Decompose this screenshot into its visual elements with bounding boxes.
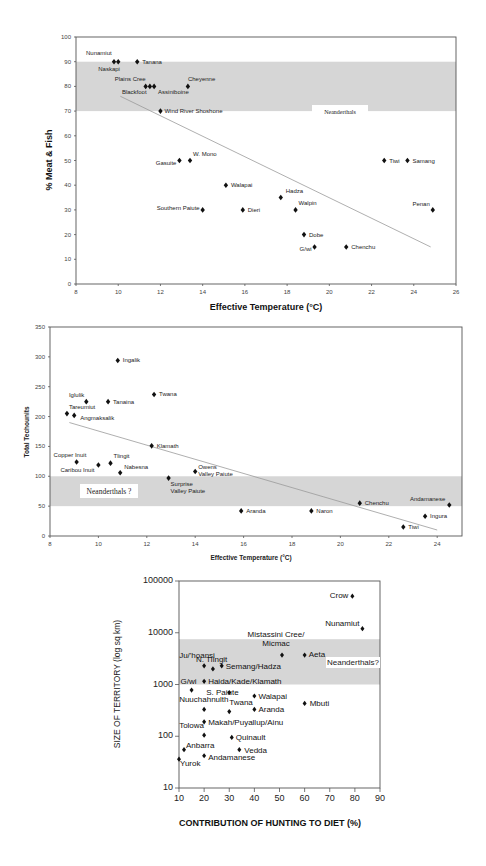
y-tick-label: 100 xyxy=(61,34,72,40)
diamond-marker-icon xyxy=(431,207,435,213)
data-point: Twana xyxy=(227,698,253,715)
data-point: Crow xyxy=(330,591,355,600)
band-label: Neanderthals ? xyxy=(87,487,132,496)
diamond-marker-icon xyxy=(190,687,194,692)
diamond-marker-icon xyxy=(401,524,405,530)
x-tick-label: 18 xyxy=(284,289,291,295)
data-point: Quinault xyxy=(230,733,267,742)
x-tick-label: 22 xyxy=(368,289,375,295)
diamond-marker-icon xyxy=(116,358,120,364)
point-label: Haida/Kade/Klamath xyxy=(208,677,281,686)
data-point: Hadza xyxy=(279,188,304,201)
point-label: Andamanese xyxy=(208,753,256,762)
x-tick-label: 20 xyxy=(337,541,344,547)
neanderthal-range-band xyxy=(76,62,456,111)
x-tick-label: 18 xyxy=(289,541,296,547)
x-tick-label: 22 xyxy=(385,541,392,547)
point-label: Southern Paiute xyxy=(157,205,201,211)
y-tick-label: 10 xyxy=(64,256,71,262)
x-tick-label: 50 xyxy=(274,793,284,803)
y-tick-label: 40 xyxy=(64,182,71,188)
y-tick-label: 350 xyxy=(35,324,46,330)
point-label: Nunamiut xyxy=(86,50,112,56)
x-tick-label: 24 xyxy=(410,289,417,295)
diamond-marker-icon xyxy=(279,195,283,201)
y-axis-title: Total Techounits xyxy=(23,406,30,457)
diamond-marker-icon xyxy=(149,443,153,449)
data-point: Chenchu xyxy=(344,244,375,250)
diamond-marker-icon xyxy=(152,392,156,398)
y-tick-label: 250 xyxy=(35,384,46,390)
y-tick-label: 1000 xyxy=(153,679,173,689)
y-tick-label: 0 xyxy=(68,281,72,287)
point-label: Ingura xyxy=(430,513,448,519)
data-point: Ingalik xyxy=(116,357,142,363)
x-tick-label: 14 xyxy=(199,289,206,295)
x-tick-label: 20 xyxy=(326,289,333,295)
point-label: Tiwi xyxy=(389,158,399,164)
point-label: Valley Paiute xyxy=(198,471,233,477)
point-label: Makah/Puyallup/Ainu xyxy=(208,718,283,727)
diamond-marker-icon xyxy=(118,470,122,476)
x-tick-label: 12 xyxy=(157,289,164,295)
point-label: Mistassini Cree/ xyxy=(248,630,306,639)
data-point: Tanaina xyxy=(106,399,135,405)
data-point: Penan xyxy=(412,201,435,213)
point-label: Naskapi xyxy=(98,66,120,72)
point-label: Nuuchahnulth xyxy=(179,695,228,704)
data-point: Tiwi xyxy=(382,158,400,164)
point-label: Walapai xyxy=(258,692,287,701)
point-label: Tlingit xyxy=(114,453,130,459)
data-point: Iglulik xyxy=(69,392,89,405)
x-tick-label: 14 xyxy=(192,541,199,547)
chart-techounits-vs-temperature: Neanderthals ?81012141618202224050100150… xyxy=(23,324,462,562)
x-axis-title: Effective Temperature (°C) xyxy=(210,302,322,312)
point-label: Tanana xyxy=(142,59,162,65)
diamond-marker-icon xyxy=(382,158,386,164)
point-label: Nunamiut xyxy=(325,619,360,628)
diamond-marker-icon xyxy=(241,207,245,213)
diamond-marker-icon xyxy=(72,413,76,419)
point-label: Assiniboine xyxy=(158,89,189,95)
data-point: Angmaksalik xyxy=(72,413,115,422)
y-tick-label: 100 xyxy=(158,730,173,740)
diamond-marker-icon xyxy=(96,462,100,468)
point-label: G/wi xyxy=(300,246,312,252)
point-label: Aranda xyxy=(246,508,266,514)
point-label: Crow xyxy=(330,591,349,600)
point-label: Tareumiut xyxy=(69,404,96,410)
point-label: G/wi xyxy=(181,677,197,686)
point-label: Tiwi xyxy=(408,524,418,530)
data-point: Haida/Kade/Klamath xyxy=(202,677,281,686)
y-tick-label: 80 xyxy=(64,83,71,89)
x-tick-label: 8 xyxy=(48,541,52,547)
data-point: Dieri xyxy=(241,207,261,213)
diamond-marker-icon xyxy=(65,411,69,417)
point-label: N. Tlingit xyxy=(196,655,228,664)
data-point: Walpin xyxy=(293,200,316,213)
data-point: Caribou Inuit xyxy=(60,462,100,473)
diamond-marker-icon xyxy=(224,182,228,188)
diamond-marker-icon xyxy=(405,158,409,164)
point-label: Nabesna xyxy=(124,464,149,470)
diamond-marker-icon xyxy=(230,735,234,740)
point-label: Quinault xyxy=(236,733,267,742)
data-point: Yurok xyxy=(177,757,201,769)
trend-line xyxy=(120,96,430,247)
data-point: Southern Paiute xyxy=(157,205,205,213)
data-point: Samang xyxy=(405,158,435,164)
diamond-marker-icon xyxy=(202,753,206,758)
chart-meat-fish-vs-temperature: Neanderthals8101214161820222426010203040… xyxy=(44,34,460,312)
point-label: Klamath xyxy=(157,443,179,449)
point-label: Copper Inuit xyxy=(54,452,87,458)
point-label: Hadza xyxy=(286,188,304,194)
x-tick-label: 20 xyxy=(199,793,209,803)
x-tick-label: 40 xyxy=(249,793,259,803)
point-label: Andamanese xyxy=(410,496,446,502)
point-label: Micmac xyxy=(262,639,290,648)
x-axis-title: CONTRIBUTION OF HUNTING TO DIET (%) xyxy=(179,818,361,828)
y-tick-label: 50 xyxy=(38,503,45,509)
data-point: Mbuti xyxy=(303,699,330,708)
point-label: Walapai xyxy=(231,182,252,188)
point-label: Plains Cree xyxy=(115,76,147,82)
